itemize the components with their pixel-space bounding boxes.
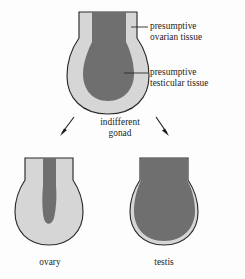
label-indifferent-line1: indifferent bbox=[78, 117, 162, 128]
label-presumptive-ovarian-tissue: presumptive ovarian tissue bbox=[150, 21, 202, 43]
label-indifferent-line2: gonad bbox=[78, 128, 162, 139]
ovary-figure bbox=[15, 158, 83, 245]
label-ovarian-line2: ovarian tissue bbox=[150, 32, 202, 43]
testis-medulla bbox=[134, 158, 195, 241]
label-testicular-line1: presumptive bbox=[150, 67, 208, 78]
label-ovary: ovary bbox=[14, 257, 86, 268]
diagram-canvas bbox=[0, 0, 245, 279]
testis-figure bbox=[130, 158, 198, 245]
label-presumptive-testicular-tissue: presumptive testicular tissue bbox=[150, 67, 208, 89]
label-indifferent-gonad: indifferent gonad bbox=[78, 117, 162, 139]
arrow-to-ovary bbox=[60, 117, 74, 136]
ovary-medulla bbox=[42, 158, 56, 224]
label-testis: testis bbox=[128, 257, 200, 268]
label-ovarian-line1: presumptive bbox=[150, 21, 202, 32]
gonad-differentiation-diagram: presumptive ovarian tissue presumptive t… bbox=[0, 0, 245, 279]
label-testicular-line2: testicular tissue bbox=[150, 78, 208, 89]
